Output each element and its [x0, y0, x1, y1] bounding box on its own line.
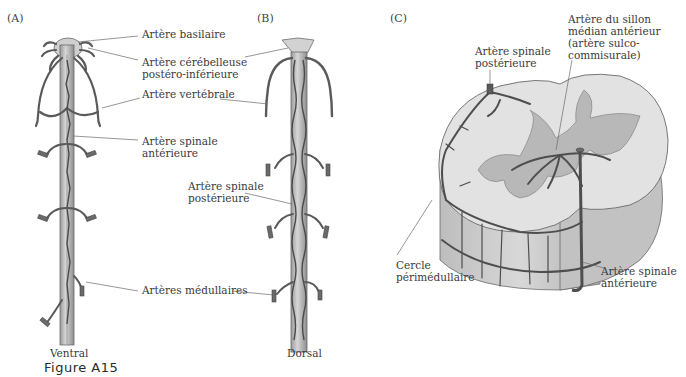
- caption-ventral: Ventral: [50, 347, 88, 359]
- label-sulcal-artery: Artère du sillonmédian antérieur (artère…: [568, 13, 660, 61]
- panel-c-cross-section: [439, 74, 668, 290]
- figure-label: Figure A15: [44, 360, 118, 375]
- label-c-posterior-spinal-artery: Artère spinalepostérieure: [475, 45, 551, 69]
- label-anterior-spinal-artery: Artère spinaleantérieure: [142, 135, 218, 159]
- panel-b-spinal-cord-dorsal: [266, 38, 332, 352]
- caption-dorsal: Dorsal: [287, 347, 322, 359]
- label-vertebral-artery: Artère vertébrale: [142, 88, 235, 100]
- label-medullary-arteries: Artères médullaires: [142, 284, 248, 296]
- label-posterior-spinal-artery: Artère spinalepostérieure: [188, 180, 264, 204]
- label-c-anterior-spinal-artery: Artère spinaleantérieure: [601, 265, 677, 289]
- label-pica: Artère cérébelleusepostéro-inférieure: [142, 56, 247, 80]
- label-perimedullary-circle: Cerclepérimédullaire: [396, 259, 475, 283]
- panel-a-spinal-cord-ventral: [36, 38, 100, 345]
- panel-letter-c: (C): [390, 12, 407, 25]
- label-basilar-artery: Artère basilaire: [142, 28, 226, 40]
- panel-letter-a: (A): [7, 12, 24, 25]
- panel-letter-b: (B): [257, 12, 274, 25]
